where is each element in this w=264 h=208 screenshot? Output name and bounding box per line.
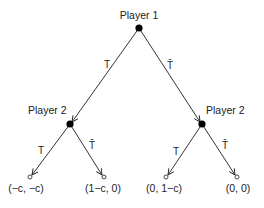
payoff-3: (0, 1−c) xyxy=(146,182,182,194)
player2-left-node xyxy=(66,120,73,127)
payoff-1: (−c, −c) xyxy=(8,182,44,194)
edge-label-left-right: T̄ xyxy=(89,139,95,151)
root-node xyxy=(135,24,142,31)
payoff-4: (0, 0) xyxy=(226,182,251,194)
leaf-node-1 xyxy=(28,175,32,179)
edge-left-right xyxy=(70,124,102,175)
leaf-node-2 xyxy=(102,175,106,179)
edge-label-root-right: T̄ xyxy=(167,59,173,71)
player2-right-label: Player 2 xyxy=(206,104,245,116)
edge-root-left xyxy=(72,28,139,122)
leaf-node-4 xyxy=(235,175,239,179)
leaf-node-3 xyxy=(164,175,168,179)
edge-right-right xyxy=(202,124,235,175)
game-tree-svg: Player 1 Player 2 Player 2 T T̄ T T̄ T T… xyxy=(0,0,264,208)
payoff-2: (1−c, 0) xyxy=(85,182,121,194)
edge-label-left-left: T xyxy=(38,145,44,156)
root-player-label: Player 1 xyxy=(120,9,159,21)
edge-root-right xyxy=(139,28,200,122)
player2-left-label: Player 2 xyxy=(28,104,67,116)
edge-label-root-left: T xyxy=(104,59,110,70)
edge-label-right-right: T̄ xyxy=(222,139,228,151)
game-tree-diagram: Player 1 Player 2 Player 2 T T̄ T T̄ T T… xyxy=(0,0,264,208)
edge-label-right-left: T xyxy=(173,146,179,157)
player2-right-node xyxy=(198,120,205,127)
